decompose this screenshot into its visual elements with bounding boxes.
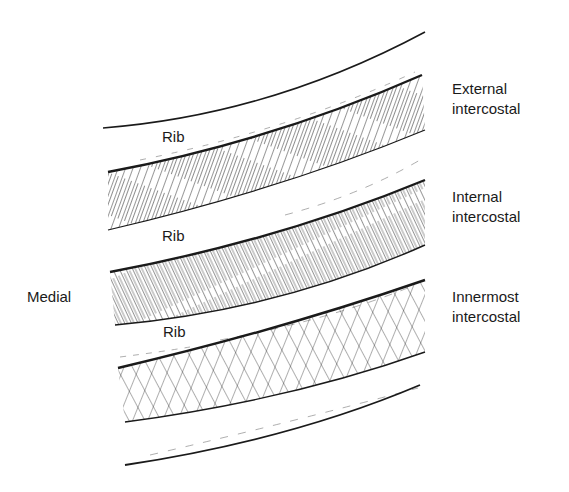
label-line: intercostal bbox=[452, 99, 520, 119]
label-line: Internal bbox=[452, 187, 520, 207]
label-medial: Medial bbox=[27, 287, 71, 307]
label-line: External bbox=[452, 79, 520, 99]
label-internal-intercostal: Internal intercostal bbox=[452, 187, 520, 227]
label-external-intercostal: External intercostal bbox=[452, 79, 520, 119]
rib-label-middle: Rib bbox=[162, 226, 185, 246]
label-line: Innermost bbox=[452, 287, 520, 307]
rib-label-top: Rib bbox=[162, 127, 185, 147]
label-line: intercostal bbox=[452, 207, 520, 227]
label-line: intercostal bbox=[452, 307, 520, 327]
rib-label-bottom: Rib bbox=[163, 322, 186, 342]
intercostal-diagram bbox=[0, 0, 569, 492]
label-innermost-intercostal: Innermost intercostal bbox=[452, 287, 520, 327]
